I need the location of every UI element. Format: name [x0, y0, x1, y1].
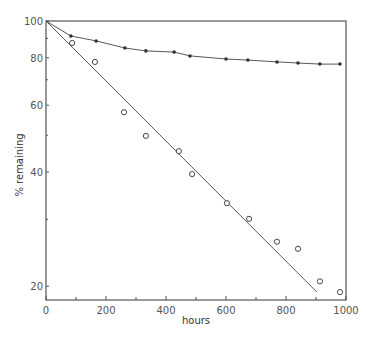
x-tick-label: 1000 [333, 305, 358, 316]
x-tick-label: 0 [43, 305, 49, 316]
filled-circle-marker [275, 60, 279, 64]
filled-circle-marker [144, 49, 148, 53]
filled-circle-marker [246, 58, 250, 62]
chart-canvas: 02004006008001000 10080604020 hours % re… [0, 0, 366, 341]
y-tick-label: 20 [30, 281, 43, 292]
open-circle-marker [121, 110, 126, 115]
open-circle-marker [190, 171, 195, 176]
y-axis-ticks: 10080604020 [24, 16, 49, 292]
filled-circle-marker [94, 39, 98, 43]
open-circle-marker [176, 149, 181, 154]
y-tick-label: 60 [30, 100, 43, 111]
filled-circle-marker [338, 62, 342, 66]
filled-circle-marker [172, 50, 176, 54]
filled-circle-marker [224, 57, 228, 61]
filled-circle-marker [296, 61, 300, 65]
filled-circle-marker [69, 34, 73, 38]
y-tick-label: 40 [30, 167, 43, 178]
open-circle-marker [92, 59, 97, 64]
filled-circle-marker [123, 46, 127, 50]
open-circle-marker [337, 290, 342, 295]
filled-circle-marker [318, 62, 322, 66]
filled-circle-marker [188, 54, 192, 58]
filled-series-line [46, 21, 340, 64]
y-tick-label: 80 [30, 53, 43, 64]
x-tick-label: 800 [276, 305, 295, 316]
x-axis-ticks: 02004006008001000 [43, 296, 359, 316]
y-tick-label: 100 [24, 16, 43, 27]
x-tick-label: 200 [96, 305, 115, 316]
open-circle-marker [70, 40, 75, 45]
open-circle-marker [295, 246, 300, 251]
open-circle-marker [247, 216, 252, 221]
x-tick-label: 400 [156, 305, 175, 316]
y-axis-title: % remaining [14, 133, 25, 196]
x-axis-title: hours [182, 315, 210, 326]
x-tick-label: 600 [216, 305, 235, 316]
open-circle-marker [143, 133, 148, 138]
open-circle-marker [317, 279, 322, 284]
series-group [46, 21, 343, 295]
open-circle-marker [274, 239, 279, 244]
open-circle-marker [224, 201, 229, 206]
